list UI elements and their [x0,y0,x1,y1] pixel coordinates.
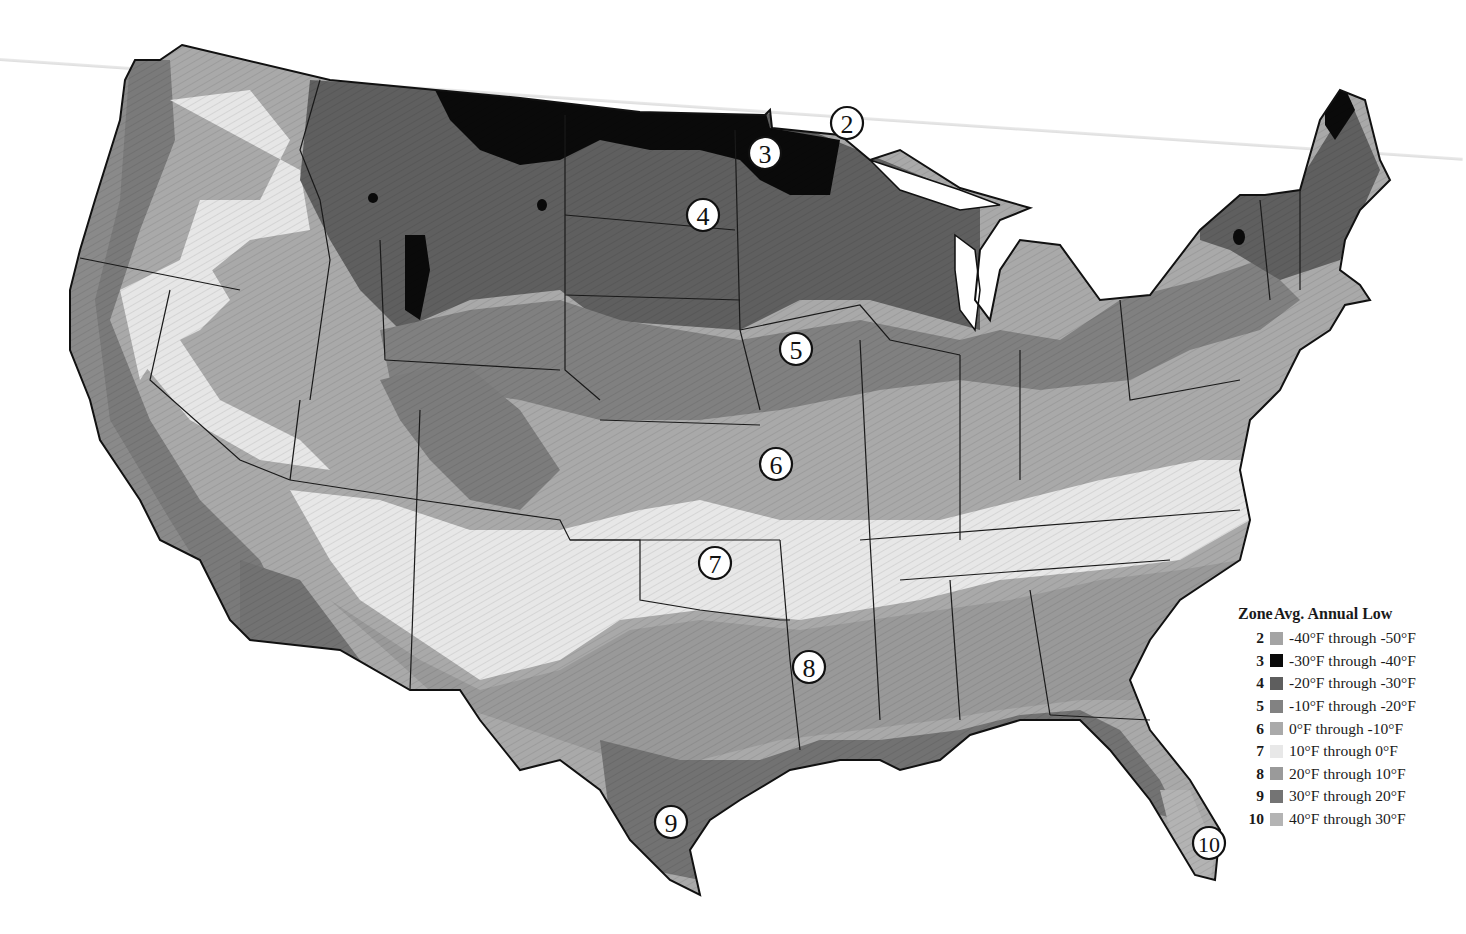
legend-zone-header: Zone [1238,605,1274,623]
legend-row-zone-3: 3 -30°F through -40°F [1238,650,1460,673]
legend-range: 20°F through 10°F [1289,765,1406,783]
legend-swatch [1270,677,1283,690]
legend-swatch [1270,632,1283,645]
zone-marker-4: 4 [687,199,719,231]
legend-row-zone-8: 8 20°F through 10°F [1238,763,1460,786]
legend-zone-number: 6 [1238,720,1270,738]
legend-zone-number: 2 [1238,629,1270,647]
svg-text:6: 6 [770,451,783,480]
legend-zone-number: 8 [1238,765,1270,783]
legend-swatch [1270,654,1283,667]
legend-zone-number: 4 [1238,674,1270,692]
legend-swatch [1270,700,1283,713]
legend-swatch [1270,745,1283,758]
legend-row-zone-10: 10 40°F through 30°F [1238,808,1460,831]
legend-row-zone-9: 9 30°F through 20°F [1238,785,1460,808]
legend-swatch [1270,767,1283,780]
legend-zone-number: 3 [1238,652,1270,670]
legend-zone-number: 9 [1238,787,1270,805]
svg-text:9: 9 [665,809,678,838]
zone-marker-2: 2 [831,107,863,139]
svg-text:4: 4 [697,202,710,231]
legend-zone-number: 5 [1238,697,1270,715]
legend-zone-number: 10 [1238,810,1270,828]
legend-low-header: Avg. Annual Low [1274,605,1392,623]
legend-range: -10°F through -20°F [1289,697,1416,715]
legend-row-zone-5: 5 -10°F through -20°F [1238,695,1460,718]
legend-swatch [1270,813,1283,826]
svg-text:2: 2 [841,110,854,139]
svg-text:8: 8 [803,654,816,683]
zone-marker-8: 8 [793,651,825,683]
legend-row-zone-7: 7 10°F through 0°F [1238,740,1460,763]
svg-text:3: 3 [759,140,772,169]
legend-row-zone-4: 4 -20°F through -30°F [1238,672,1460,695]
legend-range: 10°F through 0°F [1289,742,1398,760]
zone-marker-10: 10 [1193,827,1225,859]
legend-range: 40°F through 30°F [1289,810,1406,828]
legend-zone-number: 7 [1238,742,1270,760]
zone-marker-3: 3 [749,137,781,169]
legend-range: -20°F through -30°F [1289,674,1416,692]
zone-marker-7: 7 [699,547,731,579]
legend-row-zone-6: 6 0°F through -10°F [1238,717,1460,740]
svg-text:10: 10 [1198,832,1220,857]
svg-text:5: 5 [790,336,803,365]
legend-range: 30°F through 20°F [1289,787,1406,805]
map-legend: Zone Avg. Annual Low 2 -40°F through -50… [1238,605,1460,830]
zone-marker-9: 9 [655,806,687,838]
legend-swatch [1270,790,1283,803]
zone-marker-6: 6 [760,448,792,480]
legend-range: -30°F through -40°F [1289,652,1416,670]
legend-swatch [1270,722,1283,735]
legend-header: Zone Avg. Annual Low [1238,605,1460,623]
legend-range: -40°F through -50°F [1289,629,1416,647]
zone-marker-5: 5 [780,333,812,365]
legend-range: 0°F through -10°F [1289,720,1403,738]
svg-text:7: 7 [709,550,722,579]
legend-row-zone-2: 2 -40°F through -50°F [1238,627,1460,650]
